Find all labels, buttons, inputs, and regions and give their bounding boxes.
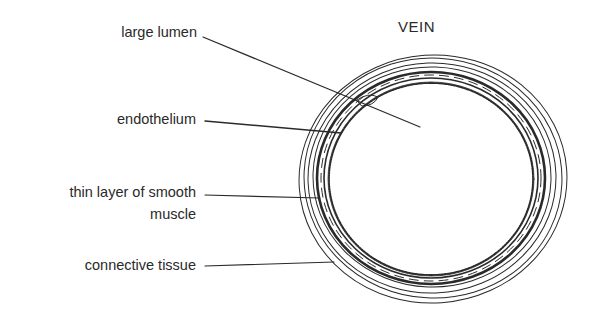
leader-line-connective-tissue xyxy=(205,262,334,266)
label-large-lumen: large lumen xyxy=(121,21,197,43)
label-smooth-muscle-line1: thin layer of smooth xyxy=(69,181,196,203)
endothelium-layer xyxy=(328,82,534,276)
leader-line-smooth-muscle xyxy=(205,195,320,198)
label-endothelium: endothelium xyxy=(117,108,196,130)
smooth-muscle-layer xyxy=(317,72,545,284)
label-connective-tissue: connective tissue xyxy=(85,254,196,276)
label-smooth-muscle: thin layer of smooth muscle xyxy=(69,181,196,225)
leader-line-large-lumen xyxy=(203,37,420,127)
diagram-title: VEIN xyxy=(398,18,435,35)
label-smooth-muscle-line2: muscle xyxy=(69,203,196,225)
